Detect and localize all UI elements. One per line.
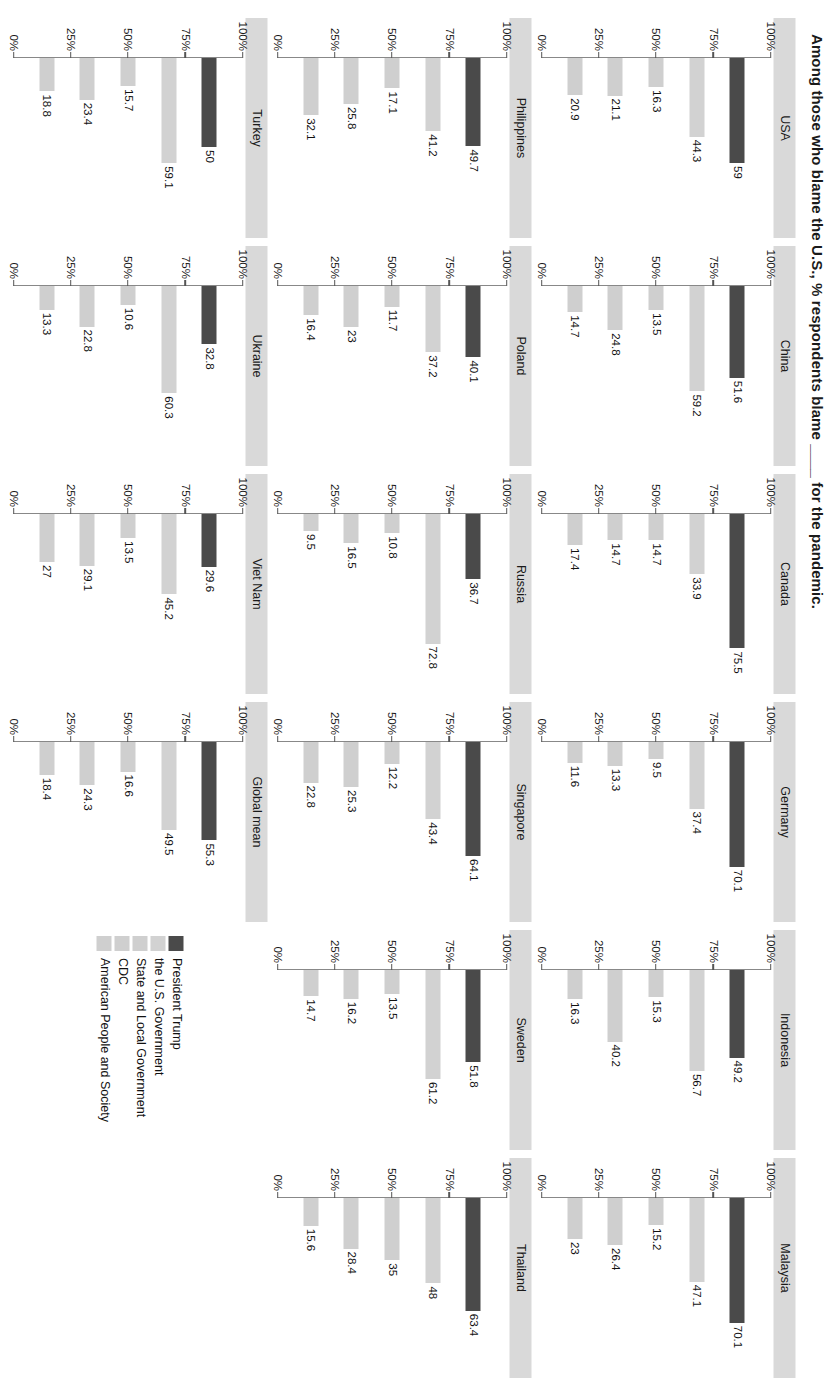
bar-row: 10.8	[384, 514, 399, 692]
bar-4	[567, 514, 582, 545]
bar-row: 14.7	[303, 970, 318, 1148]
plot-area: 40.137.211.72316.4	[277, 286, 506, 466]
bar-value-label: 64.1	[467, 856, 479, 881]
bar-value-label: 44.3	[690, 137, 702, 162]
bar-value-label: 16.2	[345, 999, 357, 1024]
bar-row: 49.7	[465, 58, 480, 236]
bar-row: 23.4	[79, 58, 94, 236]
bar-value-label: 16.6	[122, 772, 134, 797]
axis-tick-label: 0%	[271, 1174, 283, 1191]
bar-row: 49.5	[161, 742, 176, 920]
axis-tick-label: 50%	[650, 712, 662, 735]
bar-value-label: 70.1	[731, 1323, 743, 1348]
axis-tick-label: 25%	[64, 484, 76, 507]
axis-tick-label: 75%	[707, 712, 719, 735]
bar-1	[161, 514, 176, 594]
axis-tick-label: 100%	[500, 22, 512, 51]
bar-2	[384, 970, 399, 994]
bar-1	[161, 742, 176, 830]
bar-row: 16.5	[343, 514, 358, 692]
bar-row: 43.4	[425, 742, 440, 920]
legend-swatch-2	[133, 936, 148, 951]
bar-value-label: 45.2	[162, 594, 174, 619]
bar-value-label: 50	[203, 147, 215, 163]
axis-tick-label: 50%	[386, 484, 398, 507]
bar-row: 26.4	[607, 1198, 622, 1376]
bar-row: 61.2	[425, 970, 440, 1148]
axis-tick-label: 75%	[179, 484, 191, 507]
axis-tick-label: 100%	[500, 250, 512, 279]
axis-tick-label: 50%	[386, 940, 398, 963]
bar-value-label: 13.5	[650, 310, 662, 335]
bar-value-label: 14.7	[650, 540, 662, 565]
plot-area: 70.147.115.226.423	[541, 1198, 770, 1378]
bar-row: 13.3	[607, 742, 622, 920]
bar-3	[79, 286, 94, 327]
bar-value-label: 18.4	[40, 775, 52, 800]
plot-area: 75.533.914.714.717.4	[541, 514, 770, 694]
facet-title: Viet Nam	[245, 474, 267, 694]
bar-row: 40.1	[465, 286, 480, 464]
bar-row: 50	[201, 58, 216, 236]
y-axis: 100%75%50%25%0%	[277, 702, 506, 742]
bar-row: 48	[425, 1198, 440, 1376]
bar-row: 13.5	[120, 514, 135, 692]
bar-4	[567, 742, 582, 763]
axis-tick-label: 75%	[443, 1168, 455, 1191]
bar-row: 20.9	[567, 58, 582, 236]
bar-3	[343, 742, 358, 787]
axis-tick-label: 25%	[592, 712, 604, 735]
bar-row: 14.7	[567, 286, 582, 464]
legend-swatch-4	[97, 936, 112, 951]
bar-3	[607, 58, 622, 96]
bar-value-label: 40.2	[609, 1042, 621, 1067]
bar-1	[689, 742, 704, 809]
bar-4	[303, 970, 318, 996]
bar-row: 13.5	[384, 970, 399, 1148]
bar-0	[201, 742, 216, 840]
axis-tick-label: 25%	[592, 940, 604, 963]
y-axis: 100%75%50%25%0%	[541, 246, 770, 286]
y-axis: 100%75%50%25%0%	[541, 702, 770, 742]
bar-row: 16.3	[567, 970, 582, 1148]
facet-turkey: Turkey100%75%50%25%0%5059.115.723.418.8	[13, 18, 267, 238]
bar-value-label: 23	[345, 327, 357, 343]
axis-tick-label: 100%	[764, 250, 776, 279]
facet-title: Singapore	[509, 702, 531, 922]
plot-area: 55.349.516.624.318.4	[13, 742, 242, 922]
bar-0	[729, 58, 744, 163]
bar-value-label: 27	[40, 562, 52, 578]
bar-row: 15.3	[648, 970, 663, 1148]
bar-value-label: 17.1	[386, 88, 398, 113]
bar-row: 32.8	[201, 286, 216, 464]
axis-tick-label: 100%	[236, 250, 248, 279]
facet-ukraine: Ukraine100%75%50%25%0%32.860.310.622.813…	[13, 246, 267, 466]
bar-0	[465, 286, 480, 357]
bar-value-label: 16.3	[568, 999, 580, 1024]
bar-row: 10.6	[120, 286, 135, 464]
bar-row: 37.2	[425, 286, 440, 464]
axis-tick-label: 50%	[386, 1168, 398, 1191]
facet-title: Sweden	[509, 930, 531, 1150]
y-axis: 100%75%50%25%0%	[541, 18, 770, 58]
y-axis: 100%75%50%25%0%	[13, 702, 242, 742]
bar-row: 36.7	[465, 514, 480, 692]
axis-tick-label: 100%	[500, 934, 512, 963]
bar-value-label: 22.8	[304, 783, 316, 808]
bar-1	[689, 970, 704, 1071]
bar-value-label: 70.1	[731, 867, 743, 892]
bar-value-label: 11.6	[568, 763, 580, 788]
axis-tick-label: 0%	[271, 718, 283, 735]
y-axis: 100%75%50%25%0%	[13, 474, 242, 514]
axis-tick-label: 0%	[7, 262, 19, 279]
plot-area: 49.256.715.340.216.3	[541, 970, 770, 1150]
axis-tick-label: 25%	[328, 712, 340, 735]
bar-4	[567, 970, 582, 999]
axis-tick-label: 75%	[443, 712, 455, 735]
bar-4	[303, 286, 318, 315]
facet-title: China	[773, 246, 795, 466]
legend-label: the U.S. Government	[151, 958, 166, 1122]
bar-value-label: 24.3	[81, 785, 93, 810]
bar-row: 59.1	[161, 58, 176, 236]
plot-area: 5059.115.723.418.8	[13, 58, 242, 238]
